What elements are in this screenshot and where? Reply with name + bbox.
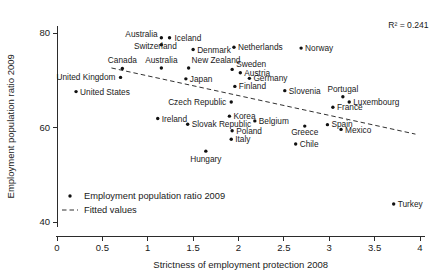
data-point[interactable]: Hungary [190,149,222,164]
point-marker [339,128,342,131]
point-marker [156,117,159,120]
data-point[interactable]: Slovenia [283,86,321,96]
point-label: Slovenia [289,86,321,96]
point-label: Denmark [197,45,232,55]
point-label: Netherlands [238,42,283,52]
point-marker [230,100,233,103]
y-axis-tick-label: 80 [39,27,50,38]
point-marker [187,66,190,69]
x-axis-tick-label: 0.5 [96,242,109,253]
point-label: Czech Republic [168,97,226,107]
data-point[interactable]: Italy [230,134,252,144]
point-marker [253,119,256,122]
point-label: Canada [108,55,137,65]
data-point[interactable]: Turkey [392,199,424,209]
point-label: Australia [125,29,158,39]
point-label: United States [80,87,130,97]
y-axis-tick-label: 60 [39,122,50,133]
data-points-group: AustraliaIcelandSwitzerlandDenmarkNether… [56,29,423,209]
legend-item[interactable]: Fitted values [62,205,137,215]
data-point[interactable]: Netherlands [232,42,282,52]
point-marker [294,142,297,145]
point-marker [74,90,77,93]
point-label: Portugal [327,84,358,94]
point-marker [191,48,194,51]
point-label: Switzerland [134,41,177,51]
point-label: New Zealand [192,55,241,65]
point-marker [326,123,329,126]
x-axis-tick-label: 2 [236,242,241,253]
data-point[interactable]: New Zealand [187,55,241,70]
point-marker [228,114,231,117]
point-marker [392,202,395,205]
data-point[interactable]: Denmark [191,45,231,55]
data-point[interactable]: Japan [184,74,213,84]
data-point[interactable]: Belgium [253,116,289,126]
point-marker [160,36,163,39]
point-marker [299,46,302,49]
legend-item[interactable]: Employment population ratio 2009 [68,191,225,201]
point-label: Chile [300,139,319,149]
point-marker [283,89,286,92]
data-point[interactable]: Mexico [339,125,371,135]
r-squared: R² = 0.241 [388,20,429,30]
point-marker [160,66,163,69]
x-axis-tick-label: 1.5 [187,242,200,253]
point-label: Italy [235,134,251,144]
chart-canvas: 40608000.511.522.533.54Strictness of emp… [0,0,439,276]
data-point[interactable]: United States [74,87,130,97]
point-marker [230,138,233,141]
point-label: Greece [291,127,319,137]
point-marker [119,76,122,79]
x-axis-tick-label: 3 [327,242,332,253]
point-marker [239,71,242,74]
point-label: Belgium [259,116,289,126]
point-marker [230,68,233,71]
data-point[interactable]: Norway [299,43,334,53]
scatter-plot-figure: 40608000.511.522.533.54Strictness of emp… [0,0,439,276]
data-point[interactable]: United Kingdom [56,72,122,82]
annotations-group: R² = 0.241 [388,20,429,30]
point-label: Turkey [398,199,424,209]
x-axis-tick-label: 3.5 [368,242,381,253]
data-point[interactable]: Finland [233,81,266,91]
point-marker [168,36,171,39]
data-point[interactable]: Chile [294,139,319,149]
point-label: United Kingdom [56,72,115,82]
point-label: Japan [190,74,213,84]
point-label: Iceland [175,33,202,43]
data-point[interactable]: Australia [145,55,178,70]
point-marker [230,129,233,132]
point-marker [184,77,187,80]
data-point[interactable]: Ireland [156,114,187,124]
point-marker [204,149,207,152]
y-axis-tick-label: 40 [39,216,50,227]
point-label: Australia [145,55,178,65]
point-label: Finland [239,81,267,91]
point-marker [233,85,236,88]
point-marker [331,105,334,108]
point-marker [248,77,251,80]
legend-label: Employment population ratio 2009 [84,191,225,201]
point-marker [232,45,235,48]
x-axis-title: Strictness of employment protection 2008 [153,259,328,270]
point-label: Hungary [190,154,222,164]
x-axis-tick-label: 2.5 [277,242,290,253]
y-axis-title: Employment population ratio 2009 [5,54,16,198]
point-marker [121,67,124,70]
chart-legend: Employment population ratio 2009Fitted v… [62,191,225,215]
point-label: Norway [305,43,334,53]
x-axis-tick-label: 1 [145,242,150,253]
x-axis-tick-label: 0 [54,242,59,253]
data-point[interactable]: Greece [291,124,319,137]
point-label: France [337,102,363,112]
point-marker [186,122,189,125]
point-marker [341,95,344,98]
data-point[interactable]: Czech Republic [168,97,233,107]
x-axis-tick-label: 4 [417,242,422,253]
legend-label: Fitted values [84,205,137,215]
point-label: Ireland [162,114,188,124]
data-point[interactable]: France [331,102,363,112]
point-label: Mexico [345,125,372,135]
legend-dot-icon [68,194,71,197]
